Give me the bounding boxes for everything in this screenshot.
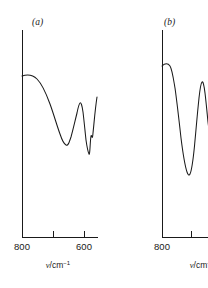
spectrum-curve-b xyxy=(162,42,208,176)
panel-b-plot: (b) 800 ν/cm−1 xyxy=(98,0,208,288)
spectrum-curve-a xyxy=(22,75,97,154)
panel-b-x-axis-title: ν/cm−1 xyxy=(190,260,208,270)
panel-b-axis-title-exp: −1 xyxy=(207,260,208,266)
panel-a-axis-title-exp: −1 xyxy=(63,260,71,266)
panel-a-tick-label-800: 800 xyxy=(14,241,30,252)
panel-b-tick-label-800: 800 xyxy=(154,241,170,252)
panel-b-label: (b) xyxy=(164,17,175,28)
panel-a-plot: (a) 800 600 ν/cm−1 xyxy=(0,0,110,288)
panel-a-x-axis-title: ν/cm−1 xyxy=(46,260,71,270)
panel-a-axis-title-unit: /cm xyxy=(50,260,64,270)
panel-b-axis-title-unit: /cm xyxy=(194,260,208,270)
spectrum-panel-b: (b) 800 ν/cm−1 xyxy=(98,0,208,288)
panel-a-label: (a) xyxy=(32,17,43,28)
panel-a-tick-label-600: 600 xyxy=(76,241,92,252)
spectrum-panel-a: (a) 800 600 ν/cm−1 xyxy=(0,0,110,288)
figure-container: (a) 800 600 ν/cm−1 (b) xyxy=(0,0,208,288)
